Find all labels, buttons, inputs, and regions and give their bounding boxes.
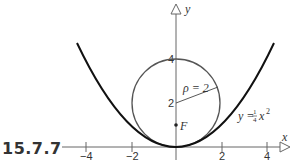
radius-label: ρ = 2	[182, 81, 209, 95]
svg-text:x: x	[258, 109, 265, 123]
y-axis-label: y	[184, 2, 191, 16]
x-tick-label: 2	[219, 150, 225, 160]
y-tick-label: 2	[168, 97, 174, 109]
x-tick-label: −2	[126, 150, 139, 160]
y-axis-arrow-icon	[171, 4, 181, 14]
x-tick-label: 4	[264, 150, 270, 160]
x-axis-label: x	[281, 130, 288, 144]
svg-text:4: 4	[253, 116, 257, 124]
focus-label: F	[179, 119, 188, 133]
parabola-osculating-circle-diagram: x y −4 −2 2 4 2 4 ρ = 2 F y = 1 4 x 2	[0, 0, 291, 160]
curve-equation-label: y = 1 4 x 2	[237, 107, 270, 124]
svg-text:2: 2	[266, 107, 270, 116]
svg-text:y =: y =	[237, 109, 254, 123]
x-tick-label: −4	[80, 150, 93, 160]
svg-text:1: 1	[253, 108, 257, 116]
x-ticks: −4 −2 2 4	[80, 142, 270, 160]
focus-point	[174, 123, 178, 127]
